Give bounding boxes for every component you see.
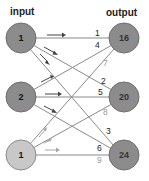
arrow-head-icon (53, 51, 59, 56)
input-node-1: 1 (6, 23, 36, 53)
arrow-head-icon (56, 148, 60, 153)
output-node-3: 24 (109, 140, 139, 170)
input-node-2: 2 (6, 82, 36, 112)
weight-label: 8 (103, 107, 108, 117)
weight-label: 5 (98, 87, 103, 97)
weight-label: 4 (95, 40, 100, 50)
weight-label: 1 (95, 28, 100, 38)
weight-label: 3 (106, 126, 111, 136)
arrow-head-icon (58, 92, 62, 97)
output-node-1: 16 (109, 23, 139, 53)
weight-label: 2 (101, 76, 106, 86)
arrow-head-icon (52, 109, 58, 114)
edges-from-input-3 (30, 49, 114, 155)
input-node-3-label: 1 (18, 150, 23, 160)
output-node-2-label: 20 (119, 92, 129, 102)
network-diagram: 1 4 7 2 5 8 3 6 9 1 2 1 16 20 24 (0, 0, 149, 181)
input-node-2-label: 2 (18, 92, 23, 102)
weight-label: 7 (103, 58, 108, 68)
weight-label: 6 (97, 143, 102, 153)
input-node-3: 1 (6, 140, 36, 170)
arrow-line (41, 77, 51, 82)
input-node-1-label: 1 (18, 33, 23, 43)
arrow-head-icon (62, 33, 66, 38)
arrow-head-icon (45, 60, 50, 65)
weight-label: 9 (97, 155, 102, 165)
arrows-input-1 (40, 33, 66, 66)
edges-from-input-2 (33, 45, 112, 149)
arrows-input-2 (41, 75, 62, 113)
output-node-2: 20 (109, 82, 139, 112)
output-node-1-label: 16 (119, 33, 129, 43)
output-node-3-label: 24 (119, 150, 129, 160)
